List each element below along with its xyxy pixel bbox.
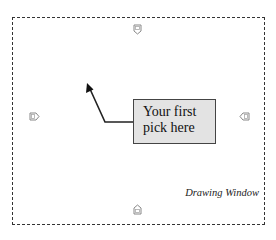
top-marker-icon [133,24,143,34]
drawing-window-label: Drawing Window [185,187,259,198]
right-marker-icon [239,112,249,122]
bottom-marker-icon [133,204,143,214]
left-marker-icon [29,112,39,122]
first-pick-callout: Your first pick here [133,99,216,144]
callout-line-1: Your first [143,104,215,120]
callout-line-2: pick here [143,120,215,136]
